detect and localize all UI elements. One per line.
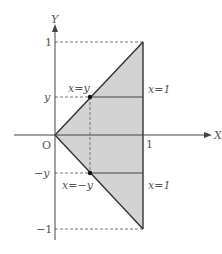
- tick-x-one: 1: [146, 138, 153, 151]
- point-lower: [88, 171, 92, 175]
- tick-y-level: y: [43, 91, 51, 104]
- x-axis-label: X: [213, 129, 222, 142]
- tick-neg-y-level: −y: [34, 167, 50, 180]
- label-x-equals-1-lower: x=1: [148, 179, 170, 192]
- label-x-equals-1-upper: x=1: [148, 83, 170, 96]
- y-axis-label: Y: [51, 13, 60, 26]
- tick-y-minus-one: −1: [36, 223, 52, 236]
- origin-label: O: [42, 139, 51, 152]
- label-x-equals-y: x=y: [68, 82, 90, 95]
- tick-y-one: 1: [45, 36, 52, 49]
- point-upper: [88, 95, 92, 99]
- diagram-canvas: Y X O 1 −1 y −y 1 x=y x=−y x=1 x=1: [0, 0, 222, 254]
- label-x-equals-neg-y: x=−y: [62, 179, 94, 192]
- x-axis-arrow-icon: [204, 132, 212, 138]
